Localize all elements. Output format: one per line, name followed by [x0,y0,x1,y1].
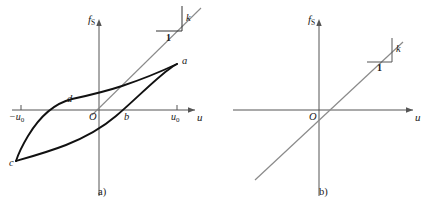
slope-rise-label-b: k [396,44,401,55]
slope-run-label-b: 1 [377,63,382,73]
x-tick-label-neg-u0: −u0 [9,112,24,124]
point-label-d: d [67,94,72,105]
point-label-c: c [9,158,14,169]
y-axis-label-b: fS [308,14,315,26]
slope-triangle-b [367,38,392,62]
origin-label-b: O [309,112,317,123]
origin-label-a: O [89,112,97,123]
panel-a-plot [0,0,215,207]
y-axis-b [316,19,321,196]
figure-container: fS u −u0 u0 O a b c d k 1 a) [0,0,429,207]
x-axis-label-a: u [197,112,203,123]
slope-run-label-a: 1 [166,33,171,43]
panel-b-plot [215,0,429,207]
panel-b-linear: fS u O k 1 b) [215,0,429,207]
panel-b-caption: b) [319,186,328,197]
point-label-b: b [124,112,129,123]
point-label-a: a [182,56,187,67]
x-tick-label-u0: u0 [171,112,180,124]
panel-a-hysteresis: fS u −u0 u0 O a b c d k 1 a) [0,0,215,207]
x-axis-label-b: u [415,112,421,123]
panel-a-caption: a) [98,186,106,197]
slope-rise-label-a: k [186,13,191,24]
slope-triangle-a [156,6,182,31]
x-axis-b [233,107,413,112]
y-axis-label-a: fS [88,14,95,26]
x-axis-a [12,107,195,112]
